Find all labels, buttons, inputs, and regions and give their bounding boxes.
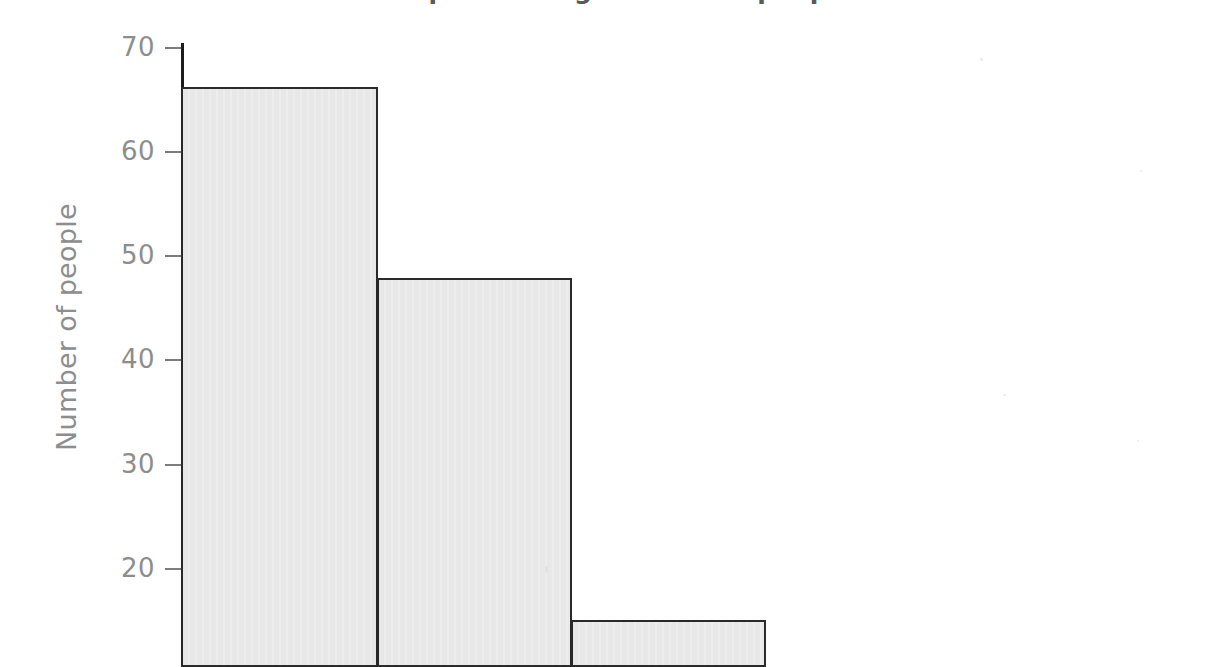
bar-1[interactable] — [181, 87, 378, 667]
y-tick-label-20: 20 — [95, 555, 155, 581]
y-axis-title-text: Number of people — [51, 203, 82, 451]
y-tick-label-50: 50 — [95, 242, 155, 268]
y-tick-mark-40 — [165, 359, 181, 361]
scan-speckle — [980, 58, 983, 61]
scan-speckle — [1140, 170, 1142, 172]
y-tick-mark-50 — [165, 255, 181, 257]
bar-2[interactable] — [377, 278, 572, 667]
scan-speckle — [545, 566, 548, 573]
y-tick-mark-30 — [165, 464, 181, 466]
y-tick-label-70: 70 — [95, 34, 155, 60]
y-tick-label-60: 60 — [95, 138, 155, 164]
y-tick-mark-70 — [165, 47, 181, 49]
bar-3[interactable] — [571, 620, 766, 667]
y-axis-title: Number of people — [46, 0, 86, 654]
y-tick-mark-60 — [165, 151, 181, 153]
y-tick-label-40: 40 — [95, 346, 155, 372]
scan-speckle — [1137, 440, 1139, 442]
y-tick-label-30: 30 — [95, 451, 155, 477]
scan-speckle — [1003, 394, 1006, 396]
y-tick-mark-20 — [165, 568, 181, 570]
